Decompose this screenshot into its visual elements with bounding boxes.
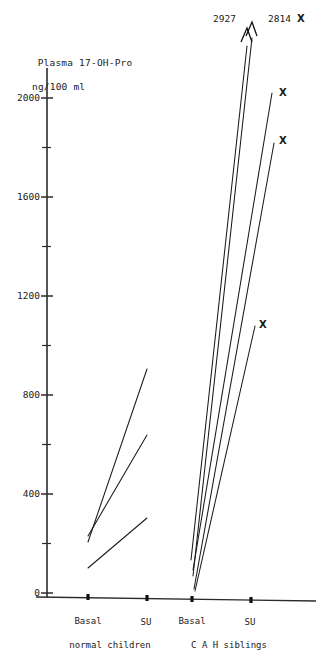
data-line-cah-subject-3 [193,93,272,570]
chart-figure: Plasma 17-OH-Pro ng/100 ml 2000 1600 120… [0,0,318,660]
series-group-cah-siblings [191,38,274,591]
data-line-normal-subject-1 [88,369,147,542]
x-axis-line [36,597,316,601]
offscale-arrow-icons [241,22,257,42]
data-line-cah-subject-5 [195,326,255,591]
chart-plot-area [0,0,318,660]
data-line-cah-subject-2 [193,38,252,576]
data-line-cah-subject-4 [194,143,274,589]
data-line-normal-subject-2 [88,435,147,536]
series-group-normal-children [88,369,147,568]
data-line-normal-subject-3 [88,518,147,568]
